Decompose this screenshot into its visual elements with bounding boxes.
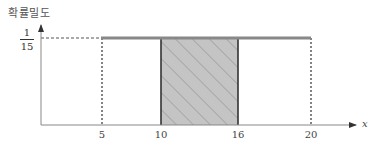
x-tick-16: 16 (232, 129, 245, 140)
x-tick-10: 10 (155, 129, 168, 140)
x-axis-variable: x (362, 118, 368, 129)
x-tick-5: 5 (99, 129, 105, 140)
x-tick-20: 20 (305, 129, 318, 140)
chart-plot (0, 0, 387, 155)
shaded-probability-region (161, 38, 238, 125)
